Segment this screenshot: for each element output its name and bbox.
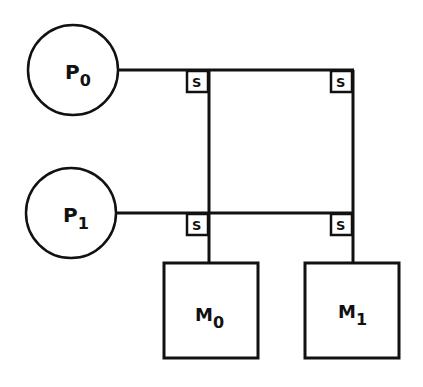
switch-p0-m0: S xyxy=(187,71,208,92)
memory-m1: M1 xyxy=(305,263,399,358)
processor-p0: P0 xyxy=(28,25,118,115)
svg-text:S: S xyxy=(336,75,345,90)
crossbar-diagram: P0 P1 S S S S M0 M1 xyxy=(0,0,423,387)
switch-p1-m1: S xyxy=(331,214,352,235)
switch-p0-m1: S xyxy=(331,71,352,92)
svg-text:S: S xyxy=(336,218,345,233)
svg-text:S: S xyxy=(192,218,201,233)
svg-text:S: S xyxy=(192,75,201,90)
switch-p1-m0: S xyxy=(187,214,208,235)
processor-p1: P1 xyxy=(26,168,116,258)
memory-m0: M0 xyxy=(164,263,258,358)
